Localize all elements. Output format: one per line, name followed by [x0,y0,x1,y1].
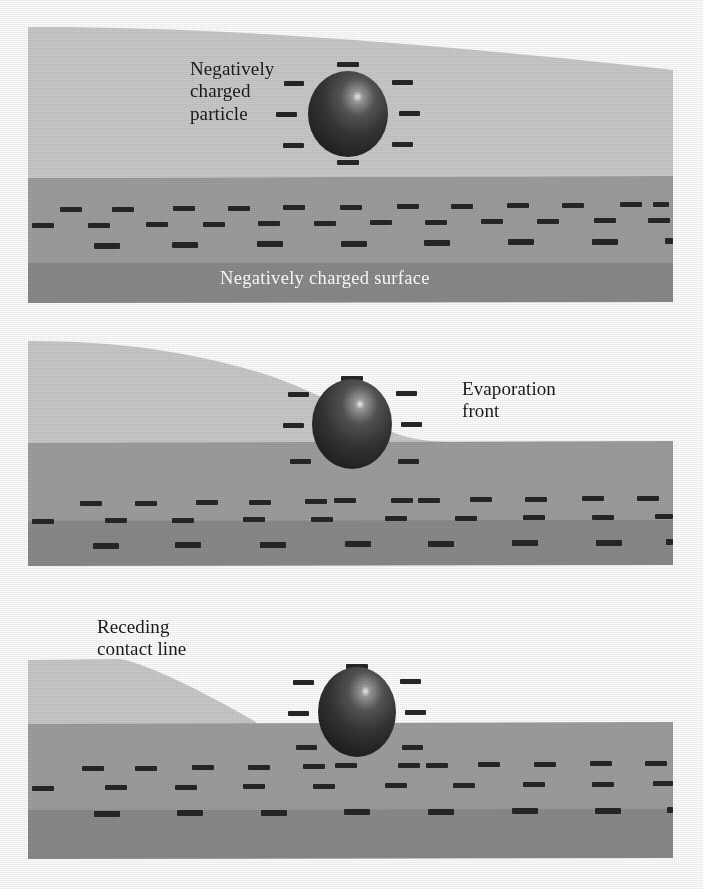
liquid-layer-1 [28,176,673,264]
particle-sphere-1 [308,71,388,157]
label-negatively-charged-surface: Negatively charged surface [220,268,430,290]
panel-1-graphics [0,0,703,889]
particle-sphere-3 [318,667,396,757]
label-negatively-charged-particle: Negatively charged particle [190,58,274,125]
label-evaporation-front: Evaporation front [462,378,556,423]
label-receding-contact-line: Receding contact line [97,616,186,661]
substrate-band-3 [28,809,673,859]
particle-sphere-2 [312,379,392,469]
vapor-layer-3 [28,659,256,724]
